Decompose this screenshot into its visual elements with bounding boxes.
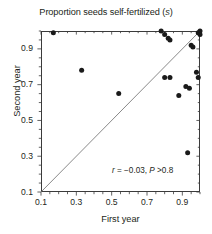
data-point (194, 70, 199, 75)
data-point (162, 75, 167, 80)
correlation-value: = −0.03, (115, 166, 150, 175)
data-point (196, 75, 201, 80)
data-point (51, 30, 56, 35)
data-point (116, 91, 121, 96)
x-tick-label: 0.5 (97, 197, 127, 207)
x-axis-label-text: First year (101, 214, 139, 224)
data-point (162, 32, 167, 37)
data-point (167, 37, 172, 42)
x-axis-label: First year (41, 214, 200, 224)
x-tick-label: 0.3 (61, 197, 91, 207)
x-tick-label: 0.9 (167, 197, 197, 207)
data-point (79, 68, 84, 73)
data-point (159, 29, 164, 34)
data-point (176, 93, 181, 98)
data-point (187, 86, 192, 91)
statistics-annotation: r = −0.03, P >0.8 (112, 166, 173, 175)
y-tick-label: 0.3 (3, 151, 33, 161)
data-points (51, 29, 203, 156)
chart-figure: Proportion seeds self-fertilized (s) 0.1… (0, 0, 212, 234)
y-tick-label: 0.1 (3, 187, 33, 197)
pvalue-value: >0.8 (155, 166, 173, 175)
y-axis-label: Second year (12, 36, 22, 146)
data-point (167, 75, 172, 80)
y-axis-label-text: Second year (12, 65, 22, 117)
x-tick-label: 0.1 (26, 197, 56, 207)
data-point (198, 32, 203, 37)
data-point (185, 150, 190, 155)
data-point (190, 45, 195, 50)
x-tick-label: 0.7 (132, 197, 162, 207)
